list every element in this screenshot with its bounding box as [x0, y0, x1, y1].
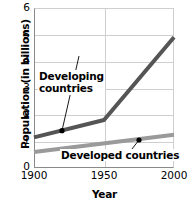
- annotation-developed-countries: Developed countries: [60, 149, 180, 161]
- x-tick-2000: 2000: [154, 170, 188, 181]
- annotation-developing-line2: countries: [39, 82, 104, 94]
- marker-dot-developed: [136, 137, 141, 142]
- marker-dot-developing: [59, 128, 64, 133]
- x-tick-1900: 1900: [14, 170, 54, 181]
- annotation-developing-countries: Developing countries: [38, 70, 105, 95]
- y-tick-3: 3: [4, 82, 30, 93]
- y-tick-6: 6: [4, 2, 30, 13]
- y-tick-4: 4: [4, 55, 30, 66]
- x-tick-1950: 1950: [84, 170, 124, 181]
- x-axis-title: Year: [34, 188, 175, 200]
- y-tick-2: 2: [4, 108, 30, 119]
- y-tick-1: 1: [4, 135, 30, 146]
- annotation-developing-line1: Developing: [39, 70, 104, 82]
- y-tick-5: 5: [4, 29, 30, 40]
- population-line-chart: Population (in billions) 6 5 4 3 2 1 0 D…: [0, 0, 188, 206]
